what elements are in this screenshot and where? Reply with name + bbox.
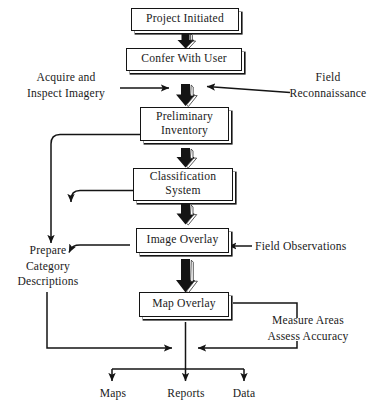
label-acquire-inspect-imagery: Acquire and Inspect Imagery: [14, 70, 118, 101]
label-prepare-line-1: Category: [2, 259, 94, 275]
node-map-overlay-line-0: Map Overlay: [152, 297, 216, 311]
label-field-observations: Field Observations: [255, 239, 365, 255]
label-acquire-line-0: Acquire and: [14, 70, 118, 86]
label-measure-assess: Measure Areas Assess Accuracy: [249, 313, 367, 344]
node-project-initiated-line-0: Project Initiated: [146, 12, 224, 26]
label-field-observations-line-0: Field Observations: [255, 239, 365, 255]
label-prepare-category-descriptions: Prepare Category Descriptions: [2, 243, 94, 290]
node-classification-system-line-1: System: [165, 184, 200, 198]
label-measure-line-0: Measure Areas: [249, 313, 367, 329]
node-classification-system[interactable]: Classification System: [133, 168, 233, 201]
node-classification-system-line-0: Classification: [150, 170, 217, 184]
block-arrow-classification-to-image-overlay: [177, 204, 197, 225]
node-image-overlay-line-0: Image Overlay: [147, 233, 219, 247]
label-reconnaissance-line-0: Field: [287, 70, 369, 86]
label-field-reconnaissance: Field Reconnaissance: [287, 70, 369, 101]
label-acquire-line-1: Inspect Imagery: [14, 86, 118, 102]
node-map-overlay[interactable]: Map Overlay: [139, 292, 229, 317]
block-arrow-image-overlay-to-map-overlay: [176, 259, 197, 293]
block-arrow-inventory-to-classification: [177, 148, 197, 168]
block-arrow-initiated-to-confer: [178, 33, 196, 49]
flowchart-canvas: Project Initiated Confer With User Preli…: [0, 0, 371, 409]
output-maps: Maps: [91, 387, 135, 400]
node-preliminary-inventory-line-0: Preliminary: [156, 110, 213, 124]
node-confer-with-user-line-0: Confer With User: [141, 52, 227, 66]
output-reports: Reports: [157, 387, 215, 400]
node-project-initiated[interactable]: Project Initiated: [131, 8, 239, 31]
output-data-label: Data: [233, 387, 256, 400]
node-preliminary-inventory-line-1: Inventory: [161, 124, 208, 138]
output-reports-label: Reports: [167, 387, 204, 400]
node-confer-with-user[interactable]: Confer With User: [126, 48, 242, 71]
output-data: Data: [222, 387, 266, 400]
block-arrow-confer-to-inventory: [176, 84, 197, 107]
label-measure-line-1: Assess Accuracy: [249, 329, 367, 345]
label-prepare-line-2: Descriptions: [2, 274, 94, 290]
node-image-overlay[interactable]: Image Overlay: [136, 228, 229, 253]
arrow-reconnaissance-to-spine: [207, 87, 290, 93]
node-preliminary-inventory[interactable]: Preliminary Inventory: [140, 107, 229, 141]
label-reconnaissance-line-1: Reconnaissance: [287, 86, 369, 102]
output-maps-label: Maps: [100, 387, 127, 400]
label-prepare-line-0: Prepare: [2, 243, 94, 259]
